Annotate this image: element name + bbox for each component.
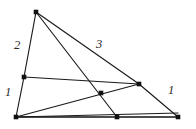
vertex-bottom-edge-point bbox=[115, 115, 119, 119]
label-2-upper-left: 2 bbox=[14, 39, 20, 52]
vertex-bottom-right bbox=[176, 115, 180, 119]
vertex-nodes-group bbox=[14, 10, 180, 119]
vertex-left-edge-point bbox=[22, 75, 26, 79]
vertex-bottom-left bbox=[14, 115, 18, 119]
left-side-upper bbox=[24, 12, 36, 77]
left-side-lower bbox=[16, 77, 24, 117]
vertex-interior-intersection bbox=[99, 91, 103, 95]
vertex-apex bbox=[34, 10, 38, 14]
label-3-upper-right: 3 bbox=[96, 38, 102, 51]
segments-group bbox=[16, 12, 178, 117]
vertex-right-edge-point bbox=[137, 82, 141, 86]
figure-canvas bbox=[0, 0, 196, 129]
label-1-right: 1 bbox=[168, 84, 174, 97]
cevian-leftpoint-to-rightpoint bbox=[24, 77, 139, 84]
geometry-figure: 2131 bbox=[0, 0, 196, 129]
cevian-bottomleft-to-rightpoint bbox=[16, 84, 139, 117]
right-side-upper bbox=[36, 12, 139, 84]
label-1-lower-left: 1 bbox=[5, 86, 11, 99]
